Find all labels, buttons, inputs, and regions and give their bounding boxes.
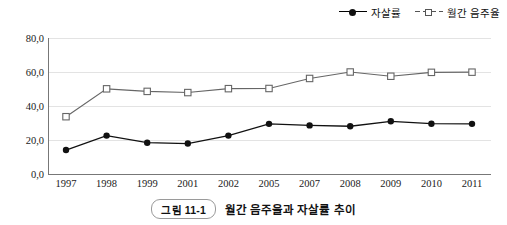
y-tick-label: 60,0 [0,67,44,78]
series-suicide-rate [63,118,475,153]
data-point [306,122,312,128]
data-point [63,114,69,120]
series-line [66,72,472,117]
x-tick-label: 2009 [380,178,401,189]
data-point [469,69,475,75]
data-point [103,132,109,138]
x-tick-label: 2002 [218,178,239,189]
data-point [428,69,434,75]
chart-figure: 자살률 월간 음주율 0,020,040,060,080,0 199719981… [0,0,507,225]
data-point [347,123,353,129]
x-tick-label: 2008 [340,178,361,189]
y-tick-label: 20,0 [0,135,44,146]
y-tick-label: 0,0 [0,169,44,180]
legend-label-drinking-rate: 월간 음주율 [447,5,500,20]
data-point [144,88,150,94]
data-point [63,147,69,153]
legend-item-drinking-rate: 월간 음주율 [415,5,500,20]
data-point [225,132,231,138]
figure-number-badge: 그림 11-1 [151,199,216,219]
data-point [347,69,353,75]
figure-caption: 그림 11-1 월간 음주율과 자살률 추이 [0,198,507,220]
x-tick-label: 1999 [137,178,158,189]
series-drinking-rate [63,69,475,120]
x-tick-label: 1998 [96,178,117,189]
y-tick-label: 40,0 [0,101,44,112]
data-point [266,121,272,127]
legend-marker-filled-circle-icon [339,7,367,17]
data-point [428,120,434,126]
y-tick-label: 80,0 [0,33,44,44]
x-tick-label: 2011 [462,178,483,189]
x-tick-label: 1997 [56,178,77,189]
legend-marker-open-square-icon [415,7,443,17]
y-axis: 0,020,040,060,080,0 [0,38,44,174]
x-tick-label: 2010 [421,178,442,189]
series-layer [48,38,490,174]
x-tick-label: 2005 [259,178,280,189]
data-point [185,140,191,146]
legend-item-suicide-rate: 자살률 [339,5,401,20]
x-tick-label: 2007 [299,178,320,189]
legend-label-suicide-rate: 자살률 [371,5,401,20]
data-point [225,85,231,91]
plot-wrapper: 0,020,040,060,080,0 19971998199920012002… [0,22,507,187]
data-point [388,73,394,79]
chart-legend: 자살률 월간 음주율 [320,2,500,22]
x-tick-label: 2001 [177,178,198,189]
figure-caption-text: 월간 음주율과 자살률 추이 [225,201,356,217]
data-point [103,86,109,92]
data-point [266,85,272,91]
data-point [469,121,475,127]
data-point [306,75,312,81]
data-point [144,140,150,146]
data-point [388,118,394,124]
data-point [185,89,191,95]
